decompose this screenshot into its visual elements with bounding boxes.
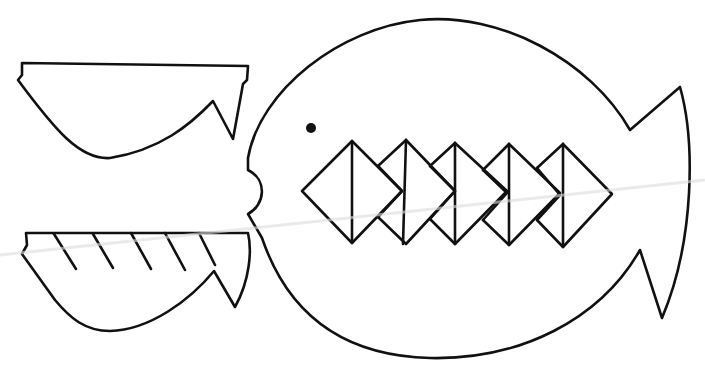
upper-fin-piece [18, 63, 248, 158]
eye-icon [306, 123, 316, 133]
